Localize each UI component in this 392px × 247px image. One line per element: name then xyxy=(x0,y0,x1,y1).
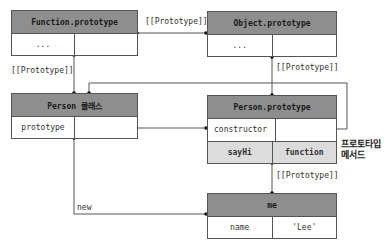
label-prototype-me-to-personproto: [[Prototype]] xyxy=(276,171,339,180)
person-prototype-row-sayhi: sayHi function xyxy=(208,141,336,163)
function-prototype-row: ... xyxy=(12,33,137,55)
me-row-name: name 'Lee' xyxy=(208,216,336,238)
object-prototype-box: Object.prototype ... xyxy=(207,11,337,57)
label-prototype-method-line1: 프로토타입 xyxy=(341,139,381,150)
me-title: me xyxy=(208,194,336,217)
person-class-row: prototype xyxy=(12,116,137,138)
person-class-box: Person 클래스 prototype xyxy=(11,93,138,139)
cell-value: function xyxy=(272,142,337,163)
label-new: new xyxy=(77,203,91,212)
cell-value xyxy=(74,116,137,138)
cell-key: name xyxy=(208,216,272,238)
cell-key: ... xyxy=(12,33,74,55)
me-instance-box: me name 'Lee' xyxy=(207,193,337,239)
label-prototype-fn-to-obj: [[Prototype]] xyxy=(145,17,208,26)
function-prototype-title: Function.prototype xyxy=(12,11,137,34)
person-class-title: Person 클래스 xyxy=(12,94,137,117)
label-prototype-person-to-fn: [[Prototype]] xyxy=(11,66,74,75)
function-prototype-box: Function.prototype ... xyxy=(11,10,138,56)
person-prototype-title: Person.prototype xyxy=(208,96,336,119)
cell-value xyxy=(74,33,137,55)
cell-key: ... xyxy=(208,34,272,56)
label-prototype-method-line2: 메서드 xyxy=(341,150,381,161)
label-prototype-method: 프로토타입 메서드 xyxy=(341,139,381,161)
person-prototype-box: Person.prototype constructor sayHi funct… xyxy=(207,95,337,164)
cell-value xyxy=(272,34,337,56)
object-prototype-row: ... xyxy=(208,34,336,56)
label-prototype-personproto-to-obj: [[Prototype]] xyxy=(276,63,339,72)
cell-key: constructor xyxy=(208,118,275,141)
person-prototype-row-constructor: constructor xyxy=(208,118,336,141)
object-prototype-title: Object.prototype xyxy=(208,12,336,35)
cell-value xyxy=(275,118,337,141)
cell-value: 'Lee' xyxy=(272,216,337,238)
cell-key: prototype xyxy=(12,116,74,138)
cell-key: sayHi xyxy=(208,142,272,163)
